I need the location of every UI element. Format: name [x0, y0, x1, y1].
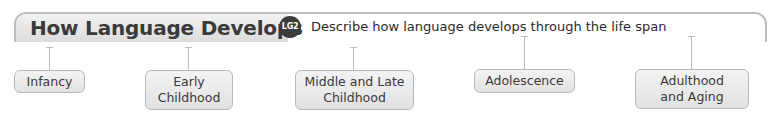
connector-adulthood-aging — [691, 36, 692, 69]
node-infancy: Infancy — [14, 70, 85, 93]
node-label: Adulthood and Aging — [648, 73, 736, 105]
learning-goal-badge: LG2 — [279, 16, 301, 38]
node-adolescence: Adolescence — [474, 69, 575, 93]
node-middle-late-childhood: Middle and Late Childhood — [295, 70, 414, 110]
connector-adolescence — [524, 36, 525, 69]
node-label: Infancy — [27, 74, 73, 90]
node-early-childhood: Early Childhood — [145, 70, 233, 110]
node-label: Early Childhood — [158, 74, 221, 106]
connector-early-childhood — [188, 47, 189, 70]
node-label: Middle and Late Childhood — [300, 74, 409, 106]
connector-infancy — [49, 47, 50, 70]
section-title: How Language Develops — [30, 14, 303, 42]
connector-middle-late-childhood — [353, 47, 354, 70]
node-adulthood-aging: Adulthood and Aging — [635, 69, 749, 109]
node-label: Adolescence — [485, 73, 564, 89]
learning-goal-description: Describe how language develops through t… — [311, 15, 666, 39]
